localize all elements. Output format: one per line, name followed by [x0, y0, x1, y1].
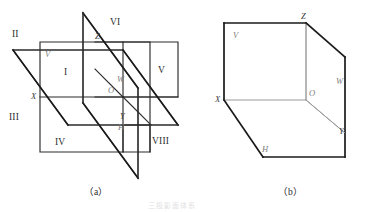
w-plane-bottom-edge-a — [83, 103, 138, 178]
octant-label-vi: VI — [110, 18, 120, 28]
octant-label-iii: III — [9, 113, 19, 123]
axis-label-y-b: Y — [339, 127, 344, 136]
h-plane-outline-a — [13, 50, 178, 125]
plane-label-v-b: V — [233, 31, 238, 40]
octant-label-i: I — [64, 68, 67, 78]
h-plane-outline-b — [224, 100, 345, 157]
h-plane-left-edge-b — [224, 100, 263, 157]
octant-label-iv: IV — [55, 138, 65, 148]
axis-label-o-b: O — [309, 89, 315, 98]
axis-label-z-b: Z — [301, 12, 306, 21]
octant-label-viii: VIII — [152, 137, 169, 147]
axis-oy-a — [123, 97, 151, 125]
axis-label-o-a: O — [108, 86, 114, 95]
caption-panel-a: （a） — [84, 188, 108, 198]
plane-label-v-a: V — [45, 50, 50, 59]
plane-label-h-a: H — [118, 123, 124, 132]
plane-label-w-a: W — [117, 75, 124, 84]
plane-label-h-b: H — [262, 145, 268, 154]
plane-label-w-b: W — [336, 77, 343, 86]
axis-label-z-a: Z — [95, 32, 100, 41]
figure-footnote: 三投影面体系 — [148, 203, 196, 210]
octant-label-v: V — [158, 66, 165, 76]
w-plane-outline-a — [83, 13, 138, 178]
axis-label-y-a: Y — [120, 112, 125, 121]
axis-label-x-b: X — [215, 95, 220, 104]
octant-label-ii: II — [12, 30, 19, 40]
v-plane-lower-extension-a — [123, 125, 150, 152]
w-plane-top-edge-b — [306, 23, 345, 57]
figure-root: II I III IV V VI VIII V W H X Y Z O V W … — [0, 0, 369, 212]
panel-a-drawing — [0, 0, 369, 212]
caption-panel-b: （b） — [278, 188, 303, 198]
axis-label-x-a: X — [31, 92, 36, 101]
